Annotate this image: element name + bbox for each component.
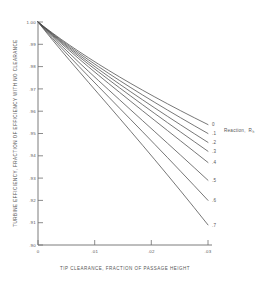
curve-series-2 [38, 22, 208, 142]
y-axis-tick-labels: 1.00 .99 .98 .97 .96 .95 .94 .93 .92 .91… [26, 20, 36, 248]
y-tick-label-0-99: .99 [29, 42, 36, 47]
curve-label-series-4: .4 [212, 160, 217, 165]
y-tick-label-0-95: .95 [29, 131, 36, 136]
y-axis-ticks [38, 22, 43, 245]
legend-title-group: Reaction, R h [224, 128, 255, 135]
y-tick-label-0-94: .94 [29, 153, 36, 158]
x-axis-title: TIP CLEARANCE, FRACTION OF PASSAGE HEIGH… [60, 266, 190, 271]
x-axis-tick-labels: 0 .01 .02 .03 [37, 249, 212, 254]
y-tick-label-0-96: .96 [29, 109, 36, 114]
curve-label-series-5: .5 [212, 178, 217, 183]
curve-series-0 [38, 22, 208, 125]
curve-label-series-0: 0 [212, 122, 215, 127]
y-tick-label-1-00: 1.00 [26, 20, 36, 25]
y-axis-title: TURBINE EFFICIENCY, FRACTION OF EFFICIEN… [13, 39, 18, 227]
curve-labels: 0 .1 .2 .3 .4 .5 .6 .7 [212, 122, 217, 227]
curve-label-series-6: .6 [212, 198, 217, 203]
y-tick-label-0-98: .98 [29, 64, 36, 69]
chart-svg: 1.00 .99 .98 .97 .96 .95 .94 .93 .92 .91… [0, 0, 272, 285]
legend-symbol-subscript: h [253, 130, 255, 134]
x-axis-ticks [38, 240, 208, 245]
chart-figure: 1.00 .99 .98 .97 .96 .95 .94 .93 .92 .91… [0, 0, 272, 285]
curve-label-series-2: .2 [212, 140, 217, 145]
chart-curves [38, 22, 208, 225]
curve-series-6 [38, 22, 208, 200]
curve-series-1 [38, 22, 208, 134]
y-tick-label-0-90: .90 [29, 243, 36, 248]
x-tick-label-01: .01 [91, 249, 98, 254]
y-tick-label-0-91: .91 [29, 220, 36, 225]
curve-series-7 [38, 22, 208, 225]
curve-label-series-1: .1 [212, 131, 217, 136]
legend-title-text: Reaction, [224, 128, 246, 133]
y-tick-label-0-92: .92 [29, 198, 36, 203]
y-tick-label-0-93: .93 [29, 176, 36, 181]
curve-label-series-3: .3 [212, 149, 217, 154]
x-tick-label-03: .03 [205, 249, 212, 254]
x-tick-label-02: .02 [148, 249, 155, 254]
x-tick-label-0: 0 [37, 249, 40, 254]
curve-label-series-7: .7 [212, 223, 217, 228]
y-tick-label-0-97: .97 [29, 87, 36, 92]
